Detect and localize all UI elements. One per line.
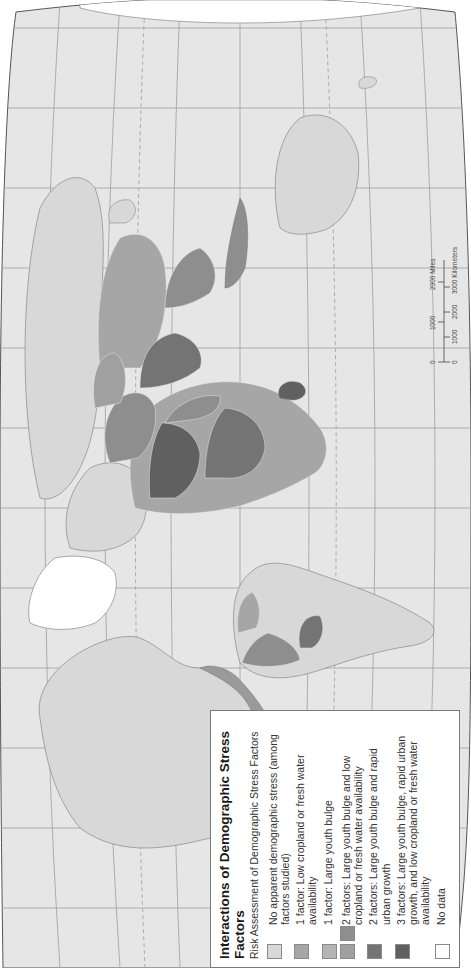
- legend-label: No data: [435, 719, 447, 925]
- swatch-youth-bulge-urban: [367, 944, 382, 959]
- legend-label: 3 factors: Large youth bulge, rapid urba…: [395, 719, 432, 925]
- scale-miles-1000: 1000: [429, 316, 436, 330]
- map-legend: Interactions of Demographic Stress Facto…: [210, 710, 460, 968]
- legend-item-youth-bulge-cropland: 2 factors: Large youth bulge and low cro…: [340, 719, 365, 959]
- legend-label: 1 factor: Large youth bulge: [322, 719, 334, 925]
- madagascar: [279, 382, 306, 400]
- legend-label: No apparent demographic stress (among fa…: [267, 719, 292, 925]
- legend-label: 2 factors: Large youth bulge and low cro…: [340, 719, 365, 925]
- legend-item-no-data: No data: [435, 719, 450, 959]
- swatch-low-cropland: [294, 944, 309, 959]
- legend-item-three-factors: 3 factors: Large youth bulge, rapid urba…: [395, 719, 432, 959]
- swatch-no-data: [435, 944, 450, 959]
- swatch-no-stress: [267, 944, 282, 959]
- scale-bar: 0 1000 2000 Miles 0 1000 2000 3000 Kilom…: [420, 170, 470, 370]
- scale-bar-lines: [420, 170, 470, 370]
- scale-km-0: 0: [451, 360, 458, 364]
- legend-title: Interactions of Demographic Stress Facto…: [217, 719, 247, 959]
- legend-item-youth-bulge-urban: 2 factors: Large youth bulge and rapid u…: [367, 719, 392, 959]
- scale-miles-0: 0: [429, 360, 436, 364]
- scale-km-1000: 1000: [451, 330, 458, 344]
- swatch-three-factors: [395, 944, 410, 959]
- scale-km-unit: 3000 Kilometers: [451, 247, 458, 294]
- scale-miles-unit: 2000 Miles: [429, 259, 436, 290]
- map-figure: Interactions of Demographic Stress Facto…: [0, 0, 471, 968]
- legend-subtitle: Risk Assessment of Demographic Stress Fa…: [248, 719, 261, 959]
- swatch-youth-bulge-cropland-b: [340, 926, 355, 941]
- scale-km-2000: 2000: [451, 305, 458, 319]
- swatch-youth-bulge: [322, 944, 337, 959]
- legend-label: 2 factors: Large youth bulge and rapid u…: [367, 719, 392, 925]
- legend-item-low-cropland: 1 factor: Low cropland or fresh water av…: [294, 719, 319, 959]
- legend-item-youth-bulge: 1 factor: Large youth bulge: [322, 719, 337, 959]
- legend-items: No apparent demographic stress (among fa…: [267, 719, 450, 959]
- swatch-youth-bulge-cropland-a: [340, 944, 355, 959]
- legend-label: 1 factor: Low cropland or fresh water av…: [294, 719, 319, 925]
- legend-item-no-stress: No apparent demographic stress (among fa…: [267, 719, 292, 959]
